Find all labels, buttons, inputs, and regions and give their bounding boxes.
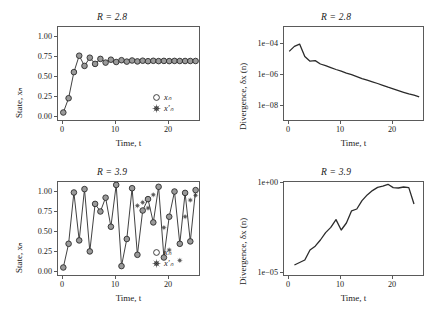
x-tick-label: 20 [378,125,406,134]
x-tick-label: 10 [326,280,354,289]
plot-area-state-r28 [57,26,200,121]
x-tick-label: 0 [274,280,302,289]
x-tickmark [115,121,116,124]
x-tick-label: 0 [48,125,76,134]
y-tick-label: 1e−06 [246,70,278,79]
plot-area-divergence-r28 [283,26,424,121]
figure-canvas: R = 2.8 State, xₙ 1.00 0.75 0.50 0.25 0.… [0,0,448,321]
legend-label: x′ₙ [164,258,173,269]
y-axis-label: State, xₙ [14,242,24,273]
panel-divergence-r28: R = 2.8 Divergence, δx (n) 1e−04 1e−06 1… [224,8,448,160]
x-axis-label: Time, t [57,293,200,303]
y-tick-label: 0.50 [24,227,52,236]
y-tick-label: 1e−08 [246,101,278,110]
legend-item: x′ₙ [152,258,173,269]
plot-area-state-r39 [57,181,200,276]
x-tick-label: 0 [48,280,76,289]
x-tickmark [168,121,169,124]
y-tick-label: 1e+00 [246,178,278,187]
x-tick-label: 10 [101,125,129,134]
panel-title: R = 3.9 [0,167,224,177]
x-tickmark [115,276,116,279]
panel-state-r28: R = 2.8 State, xₙ 1.00 0.75 0.50 0.25 0.… [0,8,224,160]
open-circle-icon [152,93,161,102]
legend-label: x′ₙ [164,103,173,114]
x-tickmark [340,121,341,124]
x-tickmark [288,121,289,124]
x-tickmark [288,276,289,279]
y-tick-label: 0.00 [24,267,52,276]
legend-label: xₙ [164,92,171,103]
legend-state-r39: xₙ x′ₙ [152,247,173,269]
x-tickmark [340,276,341,279]
y-tick-label: 1.00 [24,187,52,196]
y-tick-label: 1.00 [24,32,52,41]
panel-state-r39: R = 3.9 State, xₙ 1.00 0.75 0.50 0.25 0.… [0,163,224,318]
legend-state-r28: xₙ x′ₙ [152,92,173,114]
legend-item: x′ₙ [152,103,173,114]
x-tickmark [62,276,63,279]
x-axis-label: Time, t [283,138,424,148]
panel-divergence-r39: R = 3.9 Divergence, δx (n) 1e+00 1e−05 0… [224,163,448,318]
plot-area-divergence-r39 [283,181,424,276]
x-tick-label: 10 [101,280,129,289]
state-r39-svg [58,182,200,276]
legend-item: xₙ [152,247,173,258]
x-tick-label: 0 [274,125,302,134]
series-markers-xn [61,53,199,115]
legend-label: xₙ [164,247,171,258]
x-tickmark [62,121,63,124]
panel-title: R = 2.8 [0,12,224,22]
star-circle-icon [152,104,161,113]
divergence-r39-svg [284,182,424,276]
y-tick-label: 0.25 [24,247,52,256]
panel-title: R = 2.8 [224,12,448,22]
y-axis-label: State, xₙ [14,87,24,118]
y-tick-label: 0.50 [24,72,52,81]
x-tickmark [392,121,393,124]
x-axis-label: Time, t [57,138,200,148]
x-tickmark [168,276,169,279]
divergence-line [294,184,414,265]
y-tick-label: 0.00 [24,112,52,121]
y-tick-label: 1e−05 [246,268,278,277]
x-tick-label: 20 [154,280,182,289]
x-axis-label: Time, t [283,293,424,303]
x-tick-label: 20 [154,125,182,134]
y-tick-label: 0.25 [24,92,52,101]
panel-title: R = 3.9 [224,167,448,177]
star-circle-icon [152,259,161,268]
divergence-r28-svg [284,27,424,121]
y-tick-label: 0.75 [24,52,52,61]
open-circle-icon [152,248,161,257]
state-r28-svg [58,27,200,121]
legend-item: xₙ [152,92,173,103]
divergence-line [289,44,419,97]
series-line-xn [63,185,195,268]
x-tick-label: 10 [326,125,354,134]
x-tickmark [392,276,393,279]
y-tick-label: 0.75 [24,207,52,216]
y-tick-label: 1e−04 [246,39,278,48]
x-tick-label: 20 [378,280,406,289]
